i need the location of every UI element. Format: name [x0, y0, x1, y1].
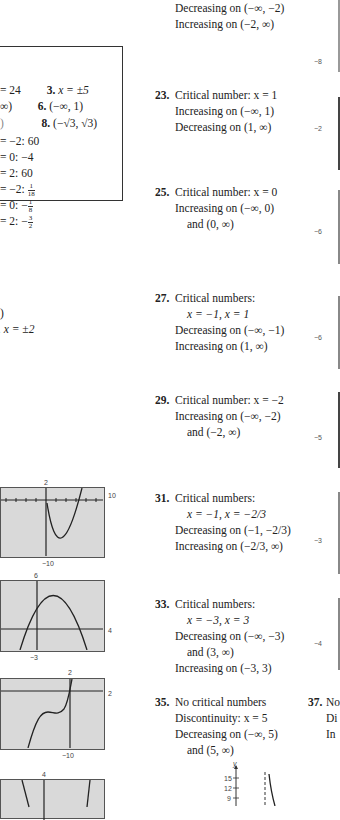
- problem-number: 35.: [155, 694, 175, 710]
- graph-22-top-label: 6: [34, 572, 38, 580]
- box-text: = 24: [0, 84, 21, 96]
- answer-line: Critical numbers:: [175, 492, 255, 504]
- edge-graph-border: [338, 392, 340, 468]
- answer-line: Increasing on (−2, ∞): [175, 16, 284, 32]
- box-line-5: = 0: −4: [0, 149, 33, 165]
- box-line-8: = 0: −18: [0, 197, 33, 214]
- answer-text: x = ±5: [58, 84, 89, 96]
- problem-number: 37.: [308, 694, 326, 710]
- problem-number: 27.: [155, 290, 175, 306]
- answer-line: and (0, ∞): [155, 216, 277, 232]
- answer-text: (−√3, √3): [53, 117, 97, 129]
- answer-line: No: [326, 696, 340, 708]
- answer-line: Increasing on (−2/3, ∞): [155, 538, 291, 554]
- answer-line: Critical number: x = 0: [175, 186, 277, 198]
- problem-number: 31.: [155, 490, 175, 506]
- graph-22-calculator-window: [0, 580, 105, 652]
- graph-21-plot: [1, 488, 103, 556]
- edge-label: −6: [314, 224, 322, 240]
- edge-graph-border: [338, 492, 340, 574]
- fraction: 118: [28, 183, 35, 198]
- edge-label: −6: [314, 330, 322, 346]
- edge-graph-border: [338, 0, 340, 72]
- answer-line: In: [308, 726, 340, 742]
- answer-line: Increasing on (−∞, −2): [155, 408, 284, 424]
- answer-line: No critical numbers: [175, 696, 266, 708]
- answer-line: Di: [308, 710, 340, 726]
- edge-graph-border: [338, 190, 340, 264]
- edge-label: −5: [314, 430, 322, 446]
- fraction: 32: [28, 215, 34, 230]
- answer-line: Decreasing on (−∞, −1): [155, 322, 284, 338]
- answer-line: Increasing on (−∞, 0): [155, 200, 277, 216]
- answer-line: Increasing on (−3, 3): [155, 660, 284, 676]
- answer-line: x = −3, x = 3: [155, 612, 284, 628]
- answer-line: and (5, ∞): [155, 742, 278, 758]
- answer-line: Discontinuity: x = 5: [155, 710, 278, 726]
- graph-21-calculator-window: [0, 487, 105, 558]
- answer-text: (−∞, 1): [49, 100, 83, 112]
- answer-line: Decreasing on (−∞, −3): [155, 628, 284, 644]
- answer-35: 35.No critical numbers Discontinuity: x …: [155, 694, 278, 758]
- answer-line: x = −1, x = 1: [155, 306, 284, 322]
- graph-24-calculator-window: [0, 779, 105, 819]
- graph-35: y 15 12 9: [225, 760, 305, 806]
- box-text: = 2: −: [0, 215, 28, 227]
- answer-31: 31.Critical numbers: x = −1, x = −2/3 De…: [155, 490, 291, 554]
- box-line-2: ∞) 6. (−∞, 1): [0, 98, 83, 114]
- edge-label: −3: [314, 533, 322, 549]
- answer-25: 25.Critical number: x = 0 Increasing on …: [155, 184, 277, 232]
- box-text: = −2:: [0, 183, 25, 195]
- graph-23-calculator-window: [0, 678, 105, 750]
- graph-35-plot: [225, 760, 305, 806]
- edge-label: −2: [314, 121, 322, 137]
- answer-23: 23.Critical number: x = 1 Increasing on …: [155, 87, 277, 135]
- answer-line: Critical number: x = −2: [175, 394, 284, 406]
- answer-line: Decreasing on (−1, −2/3): [155, 522, 291, 538]
- answer-line: Decreasing on (1, ∞): [155, 119, 277, 135]
- answer-line: and (−2, ∞): [155, 424, 284, 440]
- box-text: ): [0, 117, 4, 129]
- box-text: = 0: −: [0, 199, 28, 211]
- graph-21-bottom-label: −10: [42, 560, 54, 568]
- box-text: ∞): [0, 100, 12, 112]
- graph-24-plot: [1, 780, 103, 820]
- graph-22-right-label: 4: [108, 627, 112, 635]
- problem-number: 33.: [155, 596, 175, 612]
- graph-23-bottom-label: −10: [62, 752, 74, 760]
- answer-line: Decreasing on (−∞, 5): [155, 726, 278, 742]
- answer-line: and (3, ∞): [155, 644, 284, 660]
- problem-number: 3.: [47, 84, 56, 96]
- edge-graph-border: [338, 296, 340, 369]
- answer-29: 29.Critical number: x = −2 Increasing on…: [155, 392, 284, 440]
- box-line-4: = −2: 60: [0, 133, 39, 149]
- answer-line: Decreasing on (−∞, −2): [175, 0, 284, 16]
- edge-label: −8: [314, 54, 322, 70]
- box-line-1: = 24 3. x = ±5: [0, 82, 89, 98]
- box-line-6: = 2: 60: [0, 165, 33, 181]
- graph-21-right-label: 10: [108, 492, 116, 500]
- problem-number: 6.: [38, 100, 47, 112]
- problem-number: 8.: [42, 117, 51, 129]
- fragment-x-pm2: . x = ±2: [0, 321, 34, 337]
- graph-23-top-label: 2: [68, 669, 72, 677]
- answer-line: Critical numbers:: [175, 598, 255, 610]
- edge-graph-border: [338, 598, 340, 670]
- problem-number: 29.: [155, 392, 175, 408]
- graph-22-bottom-label: −3: [30, 654, 38, 662]
- answer-33: 33.Critical numbers: x = −3, x = 3 Decre…: [155, 596, 284, 676]
- edge-label: −4: [314, 636, 322, 652]
- fraction: 18: [28, 199, 34, 214]
- answer-line: x = −1, x = −2/3: [155, 506, 291, 522]
- problem-number: 25.: [155, 184, 175, 200]
- problem-number: 23.: [155, 87, 175, 103]
- answer-37: 37.No Di In: [308, 694, 340, 742]
- box-line-9: = 2: −32: [0, 213, 33, 230]
- edge-graph-border: [338, 97, 340, 170]
- fragment-paren: ): [0, 305, 4, 321]
- answer-line: Critical number: x = 1: [175, 89, 277, 101]
- graph-21-top-label: 2: [44, 479, 48, 487]
- graph-22-plot: [1, 581, 103, 650]
- answer-line: Increasing on (−∞, 1): [155, 103, 277, 119]
- box-line-7: = −2: 118: [0, 181, 35, 198]
